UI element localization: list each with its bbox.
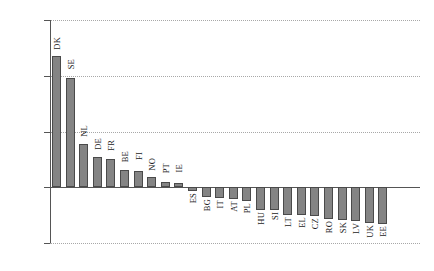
bar-se (66, 78, 75, 187)
bar-lv (351, 187, 360, 220)
bar-label-at: AT (230, 201, 239, 212)
bar-el (297, 187, 306, 215)
bar-ee (378, 187, 387, 224)
bar-fi (134, 171, 143, 188)
y-axis-tick (44, 187, 50, 188)
bar-fr (106, 159, 115, 187)
bar-be (120, 170, 129, 187)
bar-label-pt: PT (162, 163, 171, 173)
bar-label-no: NO (148, 158, 157, 171)
bar-hu (256, 187, 265, 210)
bar-label-cz: CZ (311, 218, 320, 229)
bar-label-be: BE (121, 151, 130, 162)
bar-ie (174, 183, 183, 187)
bar-label-fi: FI (135, 152, 144, 160)
bar-label-uk: UK (366, 225, 375, 238)
bar-si (270, 187, 279, 210)
bar-label-pl: PL (243, 203, 252, 213)
bar-at (229, 187, 238, 199)
bar-pt (161, 182, 170, 187)
y-axis-tick (44, 76, 50, 77)
bar-label-ee: EE (379, 226, 388, 237)
gridline (50, 132, 420, 133)
bar-lt (283, 187, 292, 214)
y-axis-tick (44, 243, 50, 244)
bar-chart: Deviation from mean DKSENLDEFRBEFINOPTIE… (0, 0, 434, 271)
y-axis-tick (44, 20, 50, 21)
bar-label-sk: SK (339, 222, 348, 233)
bar-label-el: EL (298, 217, 307, 228)
bar-label-lt: LT (284, 217, 293, 227)
bar-label-de: DE (94, 138, 103, 150)
gridline (50, 76, 420, 77)
gridline (50, 20, 420, 21)
bar-pl (242, 187, 251, 200)
bar-uk (365, 187, 374, 223)
bar-nl (79, 144, 88, 187)
gridline (50, 243, 420, 244)
plot-area: DKSENLDEFRBEFINOPTIEESBGITATPLHUSILTELCZ… (50, 20, 420, 243)
bar-label-fr: FR (107, 140, 116, 151)
bar-label-it: IT (216, 200, 225, 208)
bar-label-lv: LV (352, 223, 361, 234)
bar-sk (338, 187, 347, 220)
bar-label-hu: HU (257, 212, 266, 225)
bar-es (188, 187, 197, 191)
bar-label-bg: BG (203, 199, 212, 211)
bar-label-nl: NL (80, 125, 89, 137)
bar-label-ie: IE (175, 164, 184, 172)
y-axis-tick (44, 132, 50, 133)
bar-label-se: SE (67, 59, 76, 69)
bar-label-ro: RO (325, 221, 334, 233)
bar-no (147, 177, 156, 188)
y-axis-line (50, 20, 51, 243)
bar-ro (324, 187, 333, 219)
bar-it (215, 187, 224, 198)
bar-cz (310, 187, 319, 216)
bar-label-dk: DK (53, 37, 62, 50)
bar-bg (202, 187, 211, 196)
bar-dk (52, 56, 61, 188)
bar-label-si: SI (271, 212, 280, 220)
bar-de (93, 157, 102, 187)
bar-label-es: ES (189, 193, 198, 203)
